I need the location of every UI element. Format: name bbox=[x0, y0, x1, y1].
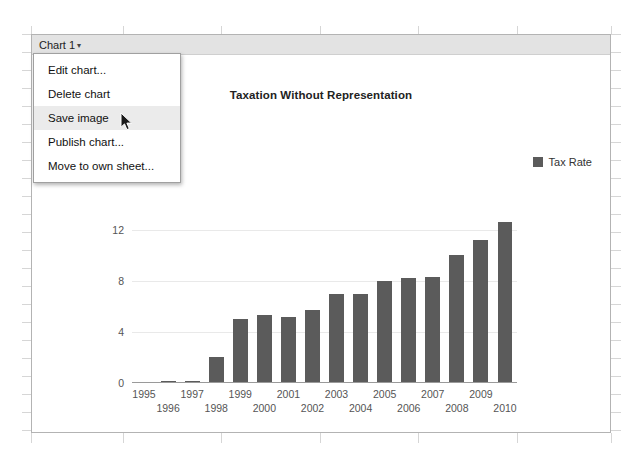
bar-series-layer bbox=[132, 204, 517, 383]
x-axis-tick-label: 2005 bbox=[373, 388, 396, 400]
sheet-row-divider bbox=[611, 34, 621, 35]
sheet-row-divider bbox=[611, 124, 621, 125]
bar[interactable] bbox=[498, 222, 513, 383]
bar-slot bbox=[493, 204, 517, 383]
bar-slot bbox=[204, 204, 228, 383]
x-axis-tick-label: 2008 bbox=[445, 402, 468, 414]
bar-slot bbox=[397, 204, 421, 383]
chart-object-header-bar bbox=[32, 35, 610, 55]
sheet-row-divider bbox=[611, 178, 621, 179]
sheet-row-divider bbox=[22, 34, 31, 35]
sheet-row-divider bbox=[611, 322, 621, 323]
sheet-row-divider bbox=[22, 106, 31, 107]
sheet-row-divider bbox=[22, 124, 31, 125]
sheet-row-divider bbox=[611, 376, 621, 377]
sheet-row-divider bbox=[611, 358, 621, 359]
legend-series-label: Tax Rate bbox=[549, 156, 592, 168]
legend-color-swatch bbox=[533, 157, 543, 167]
bar[interactable] bbox=[425, 277, 440, 383]
x-axis-tick-label: 2010 bbox=[493, 402, 516, 414]
sheet-row-divider bbox=[611, 250, 621, 251]
sheet-row-divider bbox=[22, 70, 31, 71]
sheet-row-divider bbox=[611, 304, 621, 305]
x-axis-tick-label: 1997 bbox=[180, 388, 203, 400]
bar[interactable] bbox=[281, 317, 296, 383]
menu-item-0[interactable]: Edit chart... bbox=[34, 58, 180, 82]
sheet-column-divider bbox=[320, 433, 321, 443]
menu-item-2[interactable]: Save image bbox=[34, 106, 180, 130]
sheet-row-divider bbox=[22, 304, 31, 305]
sheet-row-divider bbox=[22, 322, 31, 323]
bar-slot bbox=[300, 204, 324, 383]
sheet-column-divider bbox=[123, 433, 124, 443]
x-axis-tick-label: 2004 bbox=[349, 402, 372, 414]
sheet-row-divider bbox=[22, 358, 31, 359]
x-axis-tick-label: 2006 bbox=[397, 402, 420, 414]
x-axis-tick-label: 1996 bbox=[156, 402, 179, 414]
bar-slot bbox=[445, 204, 469, 383]
sheet-column-divider bbox=[517, 433, 518, 443]
y-axis-tick-label: 12 bbox=[112, 224, 124, 236]
sheet-row-divider bbox=[611, 268, 621, 269]
bar-slot bbox=[276, 204, 300, 383]
sheet-row-divider bbox=[611, 412, 621, 413]
sheet-row-divider bbox=[611, 88, 621, 89]
sheet-row-divider bbox=[22, 268, 31, 269]
sheet-column-divider bbox=[31, 433, 32, 443]
chart-context-menu[interactable]: Edit chart...Delete chartSave imagePubli… bbox=[33, 53, 181, 183]
sheet-row-divider bbox=[22, 232, 31, 233]
bar[interactable] bbox=[377, 281, 392, 383]
x-axis-tick-label: 2002 bbox=[301, 402, 324, 414]
y-axis-tick-label: 8 bbox=[118, 275, 124, 287]
sheet-row-divider bbox=[22, 160, 31, 161]
sheet-row-divider bbox=[611, 430, 621, 431]
sheet-row-divider bbox=[22, 178, 31, 179]
y-axis-tick-label: 4 bbox=[118, 326, 124, 338]
sheet-row-divider bbox=[611, 286, 621, 287]
bar[interactable] bbox=[329, 294, 344, 384]
sheet-row-divider bbox=[611, 232, 621, 233]
bar[interactable] bbox=[209, 357, 224, 383]
x-axis-tick-label: 1998 bbox=[205, 402, 228, 414]
chevron-down-icon: ▾ bbox=[77, 41, 81, 50]
bar[interactable] bbox=[449, 255, 464, 383]
bar-slot bbox=[421, 204, 445, 383]
chart-name-dropdown-button[interactable]: Chart 1▾ bbox=[37, 37, 83, 54]
bar[interactable] bbox=[233, 319, 248, 383]
sheet-row-divider bbox=[22, 250, 31, 251]
bar-slot bbox=[349, 204, 373, 383]
sheet-row-divider bbox=[611, 70, 621, 71]
sheet-row-divider bbox=[611, 52, 621, 53]
sheet-column-divider bbox=[221, 433, 222, 443]
sheet-row-divider bbox=[22, 412, 31, 413]
x-axis-tick-label: 1995 bbox=[132, 388, 155, 400]
sheet-row-divider bbox=[22, 214, 31, 215]
bar[interactable] bbox=[473, 240, 488, 383]
menu-item-3[interactable]: Publish chart... bbox=[34, 130, 180, 154]
menu-item-1[interactable]: Delete chart bbox=[34, 82, 180, 106]
bar-slot bbox=[156, 204, 180, 383]
bar[interactable] bbox=[305, 310, 320, 383]
sheet-row-divider bbox=[22, 286, 31, 287]
plot-area: 04812 1995199619971998199920002001200220… bbox=[132, 204, 517, 383]
x-axis-baseline bbox=[132, 382, 517, 383]
sheet-row-divider bbox=[22, 340, 31, 341]
menu-item-4[interactable]: Move to own sheet... bbox=[34, 154, 180, 178]
bar-slot bbox=[180, 204, 204, 383]
sheet-row-divider bbox=[611, 142, 621, 143]
x-axis-tick-label: 2003 bbox=[325, 388, 348, 400]
sheet-row-divider bbox=[22, 394, 31, 395]
x-axis-tick-label: 2009 bbox=[469, 388, 492, 400]
sheet-column-divider bbox=[611, 433, 612, 443]
bar-slot bbox=[373, 204, 397, 383]
sheet-row-divider bbox=[611, 340, 621, 341]
bar[interactable] bbox=[257, 315, 272, 383]
bar[interactable] bbox=[401, 278, 416, 383]
bar-slot bbox=[325, 204, 349, 383]
y-axis-tick-label: 0 bbox=[118, 377, 124, 389]
bar-slot bbox=[469, 204, 493, 383]
bar-slot bbox=[228, 204, 252, 383]
sheet-row-divider bbox=[611, 106, 621, 107]
bar[interactable] bbox=[353, 294, 368, 384]
sheet-row-divider bbox=[22, 52, 31, 53]
